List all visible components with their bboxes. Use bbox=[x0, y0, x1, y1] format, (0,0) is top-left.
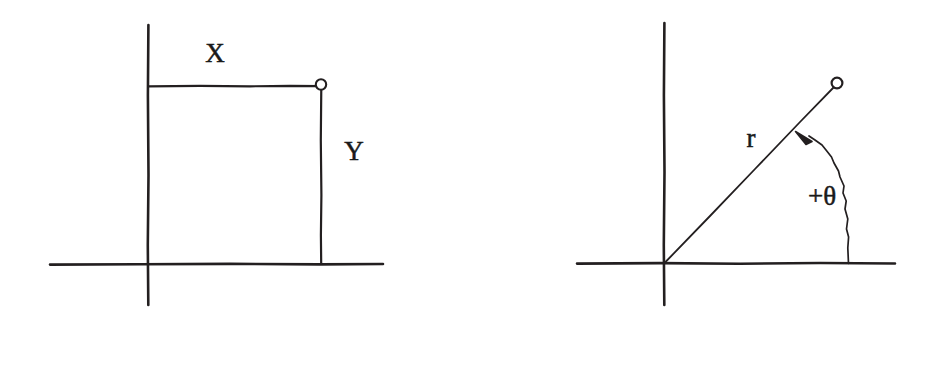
polar-radius-label: r bbox=[747, 123, 756, 153]
polar-x-axis bbox=[577, 263, 895, 264]
cartesian-x-leg bbox=[148, 86, 321, 87]
cartesian-point-marker bbox=[316, 79, 326, 89]
cartesian-x-label: X bbox=[205, 38, 225, 68]
polar-angle-label: +θ bbox=[808, 181, 836, 211]
coordinate-diagram-figure: X Y r +θ bbox=[0, 0, 939, 377]
cartesian-y-leg bbox=[321, 86, 322, 264]
polar-radius-line bbox=[665, 86, 836, 263]
cartesian-coordinate-diagram: X Y bbox=[50, 25, 383, 305]
polar-coordinate-diagram: r +θ bbox=[577, 23, 895, 305]
cartesian-y-label: Y bbox=[344, 136, 364, 166]
figure-canvas: X Y r +θ bbox=[0, 0, 939, 377]
cartesian-x-axis bbox=[50, 264, 383, 265]
cartesian-y-axis bbox=[148, 25, 149, 305]
polar-angle-arrowhead bbox=[796, 132, 813, 145]
polar-point-marker bbox=[832, 78, 843, 89]
